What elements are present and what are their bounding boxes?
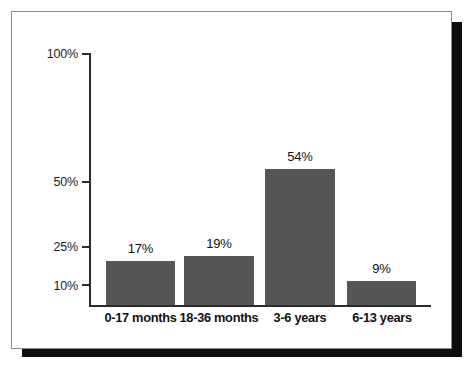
category-label-18-36-months: 18-36 months bbox=[174, 312, 264, 325]
bar-value-0-17-months: 17% bbox=[106, 242, 175, 255]
y-tick-label-50: 50% bbox=[16, 176, 78, 189]
bar-value-18-36-months: 19% bbox=[184, 237, 254, 250]
x-axis-line bbox=[89, 305, 431, 307]
bar-6-13-years bbox=[347, 281, 416, 305]
category-label-6-13-years: 6-13 years bbox=[342, 312, 422, 325]
bar-18-36-months bbox=[184, 256, 254, 305]
chart-page: 100% 50% 25% 10% 17% 19% 54% 9% 0-17 bbox=[0, 0, 473, 370]
panel-shadow-right bbox=[452, 22, 462, 357]
y-tick-label-100: 100% bbox=[16, 48, 78, 61]
y-axis-labels: 100% 50% 25% 10% bbox=[12, 12, 78, 350]
chart-panel: 100% 50% 25% 10% 17% 19% 54% 9% 0-17 bbox=[11, 11, 452, 349]
bar-3-6-years bbox=[265, 169, 335, 305]
bar-0-17-months bbox=[106, 261, 175, 305]
category-label-3-6-years: 3-6 years bbox=[260, 312, 340, 325]
bar-value-3-6-years: 54% bbox=[265, 150, 335, 163]
y-tick-label-25: 25% bbox=[16, 241, 78, 254]
y-axis-line bbox=[89, 53, 91, 307]
y-tick-label-10: 10% bbox=[16, 280, 78, 293]
category-label-0-17-months: 0-17 months bbox=[96, 312, 185, 325]
plot-area: 100% 50% 25% 10% 17% 19% 54% 9% 0-17 bbox=[12, 12, 453, 350]
bar-value-6-13-years: 9% bbox=[347, 262, 416, 275]
